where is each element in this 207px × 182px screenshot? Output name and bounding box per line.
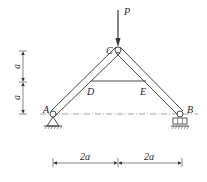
label-p: P xyxy=(123,6,130,17)
dim-label-upper: a xyxy=(11,64,22,69)
horizontal-dimension xyxy=(53,158,182,167)
label-c: C xyxy=(106,45,113,56)
dim-label-left: 2a xyxy=(80,151,90,162)
label-d: D xyxy=(86,86,95,97)
vertical-dimension xyxy=(19,51,27,114)
label-a: A xyxy=(42,104,50,115)
pin-c xyxy=(115,47,121,53)
truss-diagram: P C A B D E a a 2a 2a xyxy=(0,0,207,182)
load-arrow-icon xyxy=(116,10,121,47)
label-e: E xyxy=(139,86,146,97)
dim-label-right: 2a xyxy=(144,151,154,162)
dim-label-lower: a xyxy=(11,95,22,100)
label-b: B xyxy=(187,104,193,115)
